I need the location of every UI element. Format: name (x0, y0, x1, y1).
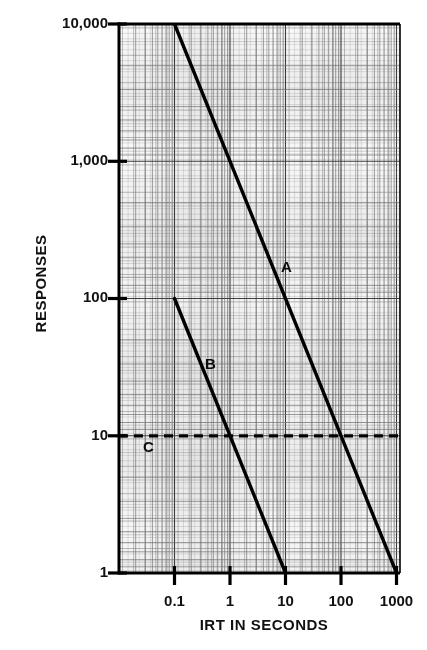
curve-label-a: A (281, 258, 292, 275)
x-tick-label-100: 100 (328, 592, 353, 609)
x-tick-label-1000: 1000 (380, 592, 413, 609)
x-tick-label-1: 1 (226, 592, 234, 609)
chart-figure: 10,000 1,000 100 10 1 0.1 1 10 100 1000 … (0, 0, 427, 650)
curve-label-c: C (143, 438, 154, 455)
curve-label-b: B (205, 355, 216, 372)
x-tick-labels: 0.1 1 10 100 1000 (0, 0, 427, 650)
y-axis-title: RESPONSES (32, 204, 49, 364)
x-tick-label-10: 10 (277, 592, 294, 609)
x-axis-title: IRT IN SECONDS (119, 616, 409, 633)
x-tick-label-0.1: 0.1 (164, 592, 185, 609)
